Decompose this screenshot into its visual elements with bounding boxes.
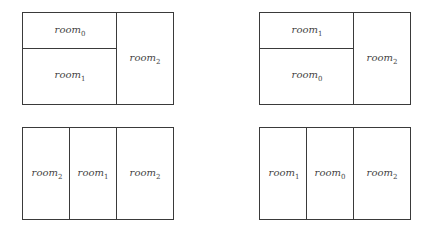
- divider-horizontal: [260, 48, 353, 49]
- divider-vertical: [353, 128, 354, 219]
- room-label: room0: [292, 69, 323, 83]
- divider-vertical: [353, 13, 354, 104]
- divider-vertical: [306, 128, 307, 219]
- room-label: room0: [55, 24, 86, 38]
- room-label: room1: [78, 167, 109, 181]
- room-label: room2: [130, 52, 161, 66]
- room-label: room2: [130, 167, 161, 181]
- floorplan-bottom-right: room1 room0 room2: [259, 127, 411, 220]
- room-label: room1: [55, 69, 86, 83]
- room-label: room1: [292, 24, 323, 38]
- divider-vertical: [69, 128, 70, 219]
- room-label: room2: [367, 167, 398, 181]
- divider-vertical: [116, 128, 117, 219]
- floorplan-top-left: room0 room1 room2: [22, 12, 174, 105]
- room-label: room0: [315, 167, 346, 181]
- divider-vertical: [116, 13, 117, 104]
- floorplan-top-right: room1 room0 room2: [259, 12, 411, 105]
- room-label: room2: [32, 167, 63, 181]
- room-label: room1: [269, 167, 300, 181]
- floorplan-bottom-left: room2 room1 room2: [22, 127, 174, 220]
- room-label: room2: [367, 52, 398, 66]
- divider-horizontal: [23, 48, 116, 49]
